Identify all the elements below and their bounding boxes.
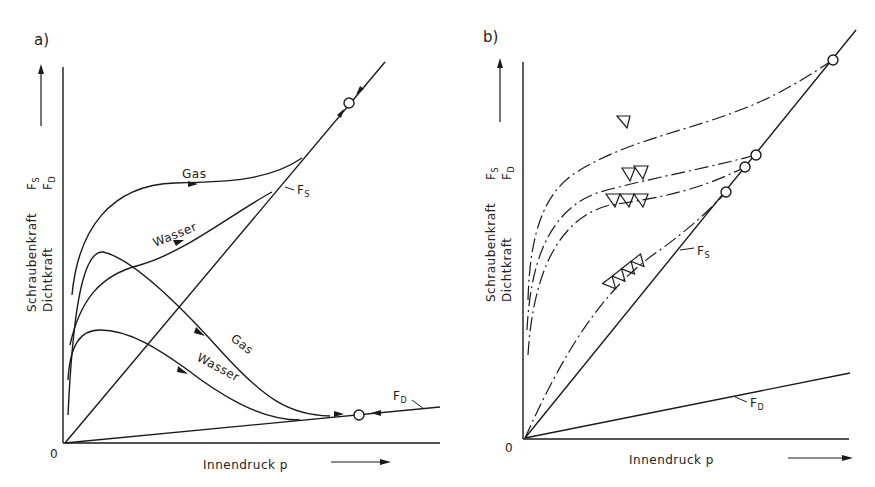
curve-two-triangles [527, 155, 756, 330]
arrow-icon [177, 366, 188, 374]
label-fd: FD [750, 396, 764, 412]
fd-line [525, 373, 850, 438]
x-axis-arrow-icon [331, 459, 391, 465]
surface-symbol-four-triangles-icon [603, 254, 648, 293]
label-fs: FS [297, 183, 310, 199]
fs-leader [285, 187, 294, 190]
figure: a) Schraubenkraft Dichtkraft FS FD 0 Inn… [0, 0, 875, 487]
operating-point-fd [354, 410, 364, 420]
operating-point [751, 150, 761, 160]
y-axis-symbol-fs: FS [25, 177, 41, 190]
operating-point [721, 187, 731, 197]
label-wasser-upper: Wasser [151, 219, 199, 249]
y-axis-symbol-fd: FD [41, 176, 57, 190]
panel-b-label: b) [483, 28, 498, 46]
panel-a-label: a) [34, 31, 49, 49]
operating-point [828, 55, 838, 65]
origin-label: 0 [50, 447, 58, 461]
surface-symbol-two-triangles-icon [622, 166, 648, 181]
x-axis-arrow-icon [788, 455, 853, 461]
fd-line [65, 407, 440, 443]
x-axis-label: Innendruck p [203, 458, 288, 472]
fs-line [525, 30, 856, 438]
fd-leader [412, 400, 424, 409]
wasser-upper-curve [70, 192, 272, 345]
y-axis-label-line1: Schraubenkraft [25, 213, 39, 312]
y-axis-symbol-fs: FS [484, 167, 500, 180]
origin-label: 0 [505, 441, 513, 455]
y-axis-symbol-fd: FD [500, 166, 516, 180]
arrow-icon [371, 410, 381, 416]
curve-three-triangles [528, 167, 745, 355]
operating-point-fs [344, 98, 354, 108]
y-axis-label-line1: Schraubenkraft [484, 203, 498, 302]
label-fd: FD [393, 389, 407, 405]
label-gas-upper: Gas [182, 167, 206, 181]
wasser-lower-curve [68, 330, 300, 420]
label-wasser-lower: Wasser [195, 350, 242, 384]
panel-a: a) Schraubenkraft Dichtkraft FS FD 0 Inn… [25, 31, 440, 472]
curve-one-triangle [528, 60, 833, 300]
label-fs: FS [697, 244, 710, 260]
y-axis-arrow-icon [497, 58, 503, 122]
fs-leader [680, 248, 694, 250]
fd-leader [735, 397, 747, 402]
arrow-icon [337, 109, 344, 118]
y-axis-label: Schraubenkraft Dichtkraft FS FD [25, 176, 57, 312]
fs-line [65, 62, 385, 443]
panel-b: b) Schraubenkraft Dichtkraft FS FD 0 Inn… [483, 28, 856, 467]
operating-point [740, 162, 750, 172]
y-axis-label-line2: Dichtkraft [41, 248, 55, 312]
y-axis-label: Schraubenkraft Dichtkraft FS FD [484, 166, 516, 302]
label-gas-lower: Gas [228, 331, 256, 357]
surface-symbol-three-triangles-icon [606, 194, 648, 207]
x-axis-label: Innendruck p [629, 453, 714, 467]
surface-symbol-one-triangle-icon [617, 116, 630, 128]
y-axis-label-line2: Dichtkraft [500, 238, 514, 302]
y-axis-arrow-icon [38, 64, 44, 126]
